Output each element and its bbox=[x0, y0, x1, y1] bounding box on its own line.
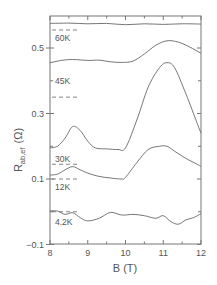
plot-frame bbox=[50, 16, 201, 244]
series-label-45k: 45K bbox=[55, 76, 70, 86]
x-axis-title: B (T) bbox=[113, 262, 137, 274]
y-axis-title: Rab,ef(Ω) bbox=[12, 128, 27, 172]
chart: 89101112 −0.10.10.30.5 60K45K30K12K4.2K … bbox=[0, 0, 217, 285]
x-tick-label: 8 bbox=[47, 248, 52, 258]
y-tick-label: −0.1 bbox=[26, 240, 44, 250]
y-tick-labels: −0.10.10.30.5 bbox=[26, 43, 44, 250]
series-label-4-2k: 4.2K bbox=[55, 217, 73, 227]
y-tick-label: 0.3 bbox=[31, 109, 44, 119]
x-tick-label: 11 bbox=[159, 248, 168, 258]
series-label-12k: 12K bbox=[55, 182, 70, 192]
x-tick-label: 10 bbox=[120, 248, 130, 258]
curve-30k bbox=[50, 63, 201, 151]
curve-4-2k bbox=[50, 211, 201, 225]
y-axis-title-main: R bbox=[12, 164, 24, 172]
series-label-60k: 60K bbox=[55, 33, 70, 43]
curve-60k bbox=[50, 23, 201, 25]
y-axis-title-sub: ab,ef bbox=[18, 147, 27, 165]
y-axis-title-unit: (Ω) bbox=[12, 128, 24, 144]
y-tick-label: 0.5 bbox=[31, 43, 44, 53]
y-tick-label: 0.1 bbox=[31, 174, 44, 184]
curve-45k bbox=[50, 41, 201, 63]
svg-text:Rab,ef(Ω): Rab,ef(Ω) bbox=[12, 128, 27, 172]
curve-12k bbox=[50, 146, 201, 179]
x-tick-label: 12 bbox=[196, 248, 206, 258]
x-tick-label: 9 bbox=[85, 248, 90, 258]
series-label-30k: 30K bbox=[55, 154, 70, 164]
curves bbox=[50, 23, 201, 224]
x-tick-labels: 89101112 bbox=[47, 248, 206, 258]
